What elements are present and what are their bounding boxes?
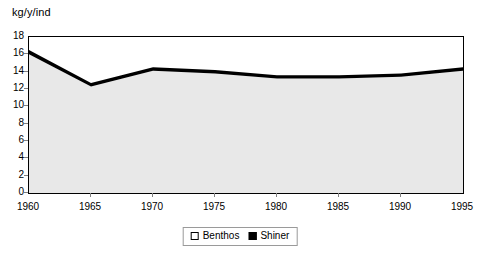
chart-legend: Benthos Shiner — [183, 227, 298, 246]
x-axis-tick-label: 1965 — [79, 201, 101, 212]
legend-label-shiner: Shiner — [260, 230, 289, 242]
y-axis-tick-label: 16 — [2, 48, 24, 58]
x-axis-tick-mark — [400, 193, 401, 197]
benthos-swatch-icon — [191, 232, 199, 240]
x-axis-tick-label: 1990 — [389, 201, 411, 212]
chart-container: kg/y/ind 181614121086420 196019651970197… — [0, 0, 480, 263]
legend-label-benthos: Benthos — [203, 230, 240, 242]
legend-item-shiner: Shiner — [248, 230, 289, 242]
x-axis-tick-label: 1980 — [265, 201, 287, 212]
shiner-swatch-icon — [248, 232, 256, 240]
x-axis-tick-mark — [90, 193, 91, 197]
y-axis-tick-label: 4 — [2, 152, 24, 162]
y-axis-tick-label: 18 — [2, 31, 24, 41]
y-axis-tick-label: 6 — [2, 135, 24, 145]
x-axis-tick-mark — [338, 193, 339, 197]
y-axis-tick-label: 12 — [2, 83, 24, 93]
x-axis-tick-mark — [152, 193, 153, 197]
x-axis: 19601965197019751980198519901995 — [28, 193, 462, 217]
y-axis: 181614121086420 — [0, 36, 24, 192]
legend-item-benthos: Benthos — [191, 230, 240, 242]
y-axis-tick-label: 0 — [2, 187, 24, 197]
x-axis-tick-label: 1995 — [451, 201, 473, 212]
x-axis-tick-label: 1970 — [141, 201, 163, 212]
x-axis-tick-label: 1985 — [327, 201, 349, 212]
x-axis-tick-label: 1960 — [17, 201, 39, 212]
y-axis-unit-label: kg/y/ind — [12, 6, 51, 19]
plot-area — [28, 36, 464, 194]
x-axis-tick-label: 1975 — [203, 201, 225, 212]
x-axis-tick-mark — [276, 193, 277, 197]
y-axis-tick-label: 8 — [2, 118, 24, 128]
chart-plot-svg — [29, 37, 463, 193]
y-axis-tick-label: 14 — [2, 66, 24, 76]
y-axis-tick-label: 2 — [2, 170, 24, 180]
x-axis-tick-mark — [214, 193, 215, 197]
y-axis-tick-label: 10 — [2, 100, 24, 110]
